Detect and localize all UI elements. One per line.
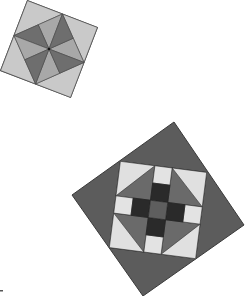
- edge-square: [183, 205, 202, 224]
- pinwheel-block: [1, 1, 98, 98]
- inner-block: [109, 161, 206, 258]
- cross-square: [131, 198, 150, 217]
- center-square: [148, 200, 167, 219]
- artifact-mark: [0, 290, 3, 292]
- shoofly-block: [72, 122, 244, 296]
- cross-square: [166, 202, 185, 221]
- edge-square: [153, 166, 172, 185]
- cross-square: [150, 183, 169, 202]
- edge-square: [144, 235, 163, 254]
- cross-square: [146, 218, 165, 237]
- edge-square: [114, 196, 133, 215]
- quilt-canvas: [0, 0, 247, 296]
